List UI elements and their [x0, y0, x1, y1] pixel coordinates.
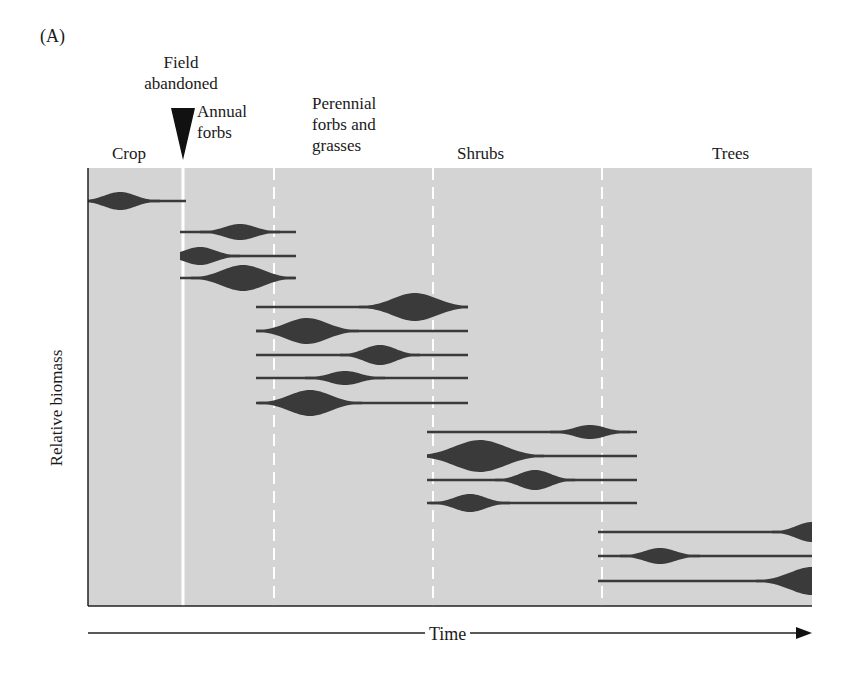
plot-area	[88, 168, 812, 606]
y-axis-label: Relative biomass	[46, 350, 67, 467]
time-arrow-head-icon	[796, 627, 812, 639]
field-abandoned-marker-icon	[171, 108, 195, 160]
succession-diagram	[0, 0, 856, 674]
x-axis-label: Time	[425, 624, 470, 645]
